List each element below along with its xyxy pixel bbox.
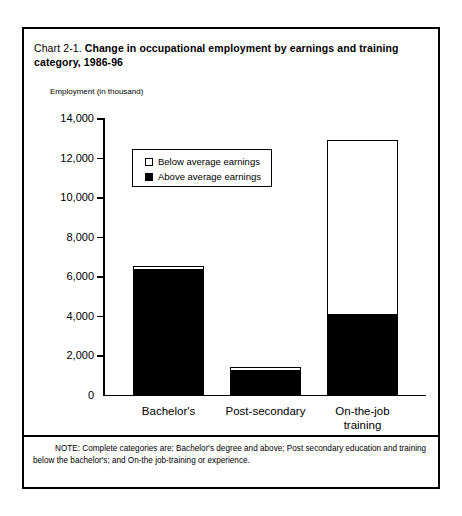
tick-mark [97, 355, 103, 357]
tick-mark [97, 316, 103, 318]
category-line-2: training [317, 418, 408, 432]
category-line-1: Post-secondary [215, 404, 316, 418]
y-axis-line [103, 118, 105, 396]
y-tick-label: 10,000 [60, 191, 94, 203]
tick-mark [97, 237, 103, 239]
tick-mark [97, 276, 103, 278]
bar-on-the-job-training[interactable] [327, 140, 398, 395]
legend-label: Below average earnings [158, 156, 260, 167]
y-tick-label: 8,000 [66, 231, 94, 243]
chart-title-number: Chart 2-1. [34, 42, 82, 54]
chart-title: Chart 2-1. Change in occupational employ… [34, 41, 424, 69]
legend-item-below-average: Below average earnings [145, 154, 271, 169]
bar-segment-above-average [230, 371, 301, 395]
chart-legend: Below average earnings Above average ear… [132, 149, 272, 187]
bar-segment-above-average [327, 315, 398, 395]
x-category-label-bachelors: Bachelor's [123, 404, 214, 418]
x-category-label-on-the-job-training: On-the-job training [317, 404, 408, 432]
x-axis-line [103, 395, 426, 397]
white-square-icon [145, 158, 153, 166]
bar-segment-below-average [230, 367, 301, 371]
y-axis-title: Employment (in thousand) [50, 87, 143, 96]
y-tick-label: 4,000 [66, 310, 94, 322]
bar-bachelors[interactable] [133, 266, 204, 394]
legend-item-above-average: Above average earnings [145, 169, 271, 184]
y-tick-label: 6,000 [66, 270, 94, 282]
y-tick-label: 12,000 [60, 152, 94, 164]
bar-post-secondary[interactable] [230, 367, 301, 395]
chart-note: NOTE: Complete categories are: Bachelor'… [33, 443, 429, 466]
tick-mark [97, 158, 103, 160]
y-tick-label: 2,000 [66, 349, 94, 361]
tick-mark [97, 197, 103, 199]
legend-label: Above average earnings [158, 171, 261, 182]
y-tick-label: 0 [88, 389, 94, 401]
y-tick-label: 14,000 [60, 112, 94, 124]
bar-segment-below-average [133, 266, 204, 270]
chart-title-text: Change in occupational employment by ear… [34, 42, 399, 68]
x-category-label-post-secondary: Post-secondary [215, 404, 316, 418]
chart-frame: Chart 2-1. Change in occupational employ… [22, 27, 440, 489]
category-line-1: Bachelor's [123, 404, 214, 418]
tick-mark [97, 118, 103, 120]
bar-segment-below-average [327, 140, 398, 315]
black-square-icon [145, 173, 153, 181]
bar-segment-above-average [133, 270, 204, 394]
note-divider [24, 435, 438, 437]
category-line-1: On-the-job [317, 404, 408, 418]
